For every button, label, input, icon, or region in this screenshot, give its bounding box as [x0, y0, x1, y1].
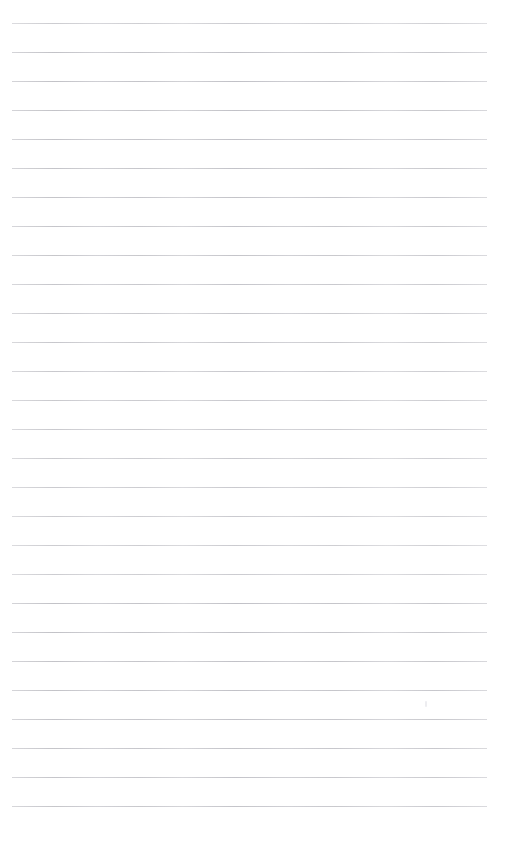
rule-line: [12, 255, 487, 256]
rule-line: [12, 719, 487, 720]
rule-line: [12, 284, 487, 285]
rule-line: [12, 313, 487, 314]
rule-line: [12, 632, 487, 633]
ruled-paper-page: [0, 0, 511, 859]
rule-line: [12, 52, 487, 53]
rule-line: [12, 661, 487, 662]
rule-line: [12, 168, 487, 169]
rule-line: [12, 574, 487, 575]
rule-line: [12, 487, 487, 488]
rule-line: [12, 458, 487, 459]
rule-line: [12, 429, 487, 430]
rule-line: [12, 545, 487, 546]
rule-line: [12, 226, 487, 227]
ruled-writing-area[interactable]: [0, 0, 511, 859]
rule-line: [12, 342, 487, 343]
rule-line: [12, 400, 487, 401]
rule-line: [12, 197, 487, 198]
rule-line: [12, 806, 487, 807]
rule-line: [12, 603, 487, 604]
rule-line: [12, 516, 487, 517]
rule-line: [12, 371, 487, 372]
rule-line: [12, 748, 487, 749]
rule-line: [12, 139, 487, 140]
rule-line: [12, 23, 487, 24]
rule-line: [12, 81, 487, 82]
rule-line: [12, 110, 487, 111]
rule-line: [12, 777, 487, 778]
scan-speck: [425, 701, 427, 707]
rule-line: [12, 690, 487, 691]
